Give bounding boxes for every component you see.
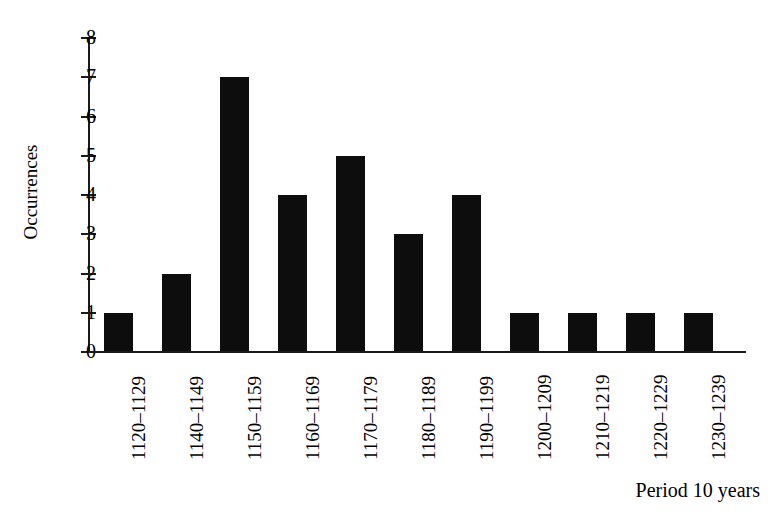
bar-chart: Occurrences 876543210 1120–11291140–1149… bbox=[0, 0, 783, 526]
x-axis-tick-label: 1230–1239 bbox=[708, 340, 730, 460]
x-axis-tick-label: 1120–1129 bbox=[128, 340, 150, 460]
x-axis-tick-label: 1180–1189 bbox=[418, 340, 440, 460]
x-axis-tick-label: 1150–1159 bbox=[244, 340, 266, 460]
bar bbox=[394, 234, 423, 352]
x-axis-tick-label: 1210–1219 bbox=[592, 340, 614, 460]
x-axis-title: Period 10 years bbox=[560, 478, 760, 502]
plot-area bbox=[88, 38, 746, 352]
x-axis-tick-label: 1160–1169 bbox=[302, 340, 324, 460]
bar bbox=[452, 195, 481, 352]
bar bbox=[336, 156, 365, 352]
x-axis-tick-label: 1170–1179 bbox=[360, 340, 382, 460]
x-axis-tick-label: 1200–1209 bbox=[534, 340, 556, 460]
bar bbox=[278, 195, 307, 352]
x-axis-tick-label: 1190–1199 bbox=[476, 340, 498, 460]
x-axis-tick-label: 1140–1149 bbox=[186, 340, 208, 460]
x-axis-tick-label: 1220–1229 bbox=[650, 340, 672, 460]
bar bbox=[220, 77, 249, 352]
y-axis-title: Occurrences bbox=[21, 122, 41, 262]
